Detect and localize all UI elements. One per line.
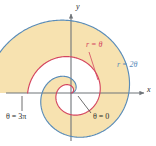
theta-end-label: θ = 3π <box>6 113 26 121</box>
leader-line-theta-zero <box>78 96 91 113</box>
x-axis-label: x <box>147 86 151 94</box>
polar-plot-canvas <box>0 0 156 146</box>
y-axis-label: y <box>76 3 80 11</box>
inner-curve-label: r = θ <box>86 41 102 49</box>
theta-start-label: θ = 0 <box>93 113 109 121</box>
outer-curve-label: r = 2θ <box>117 61 137 69</box>
polar-spiral-figure: y x r = θ r = 2θ θ = 3π θ = 0 <box>0 0 156 146</box>
